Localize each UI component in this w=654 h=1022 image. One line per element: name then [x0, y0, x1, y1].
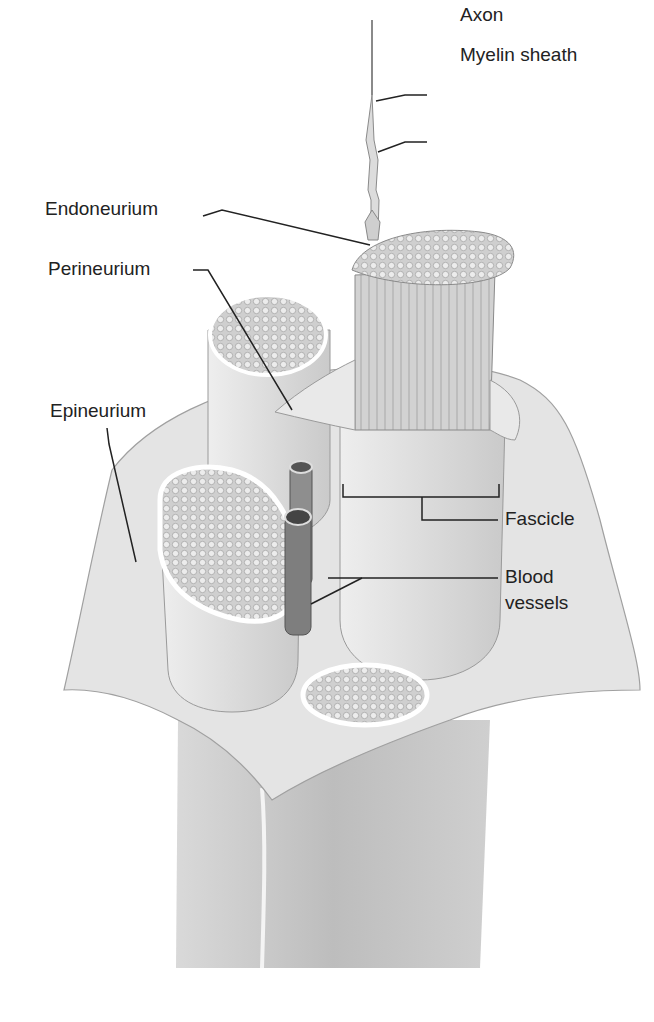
leader-axon [376, 95, 427, 101]
label-endoneurium: Endoneurium [45, 198, 158, 220]
fascicle-small [303, 665, 427, 725]
leader-endoneurium [203, 210, 370, 245]
label-fascicle: Fascicle [505, 508, 575, 530]
label-perineurium: Perineurium [48, 258, 150, 280]
label-axon: Axon [460, 4, 503, 26]
leader-myelin [378, 142, 427, 152]
label-blood-vessels-line2: vessels [505, 592, 568, 614]
nerve-diagram: Axon Myelin sheath Endoneurium Perineuri… [0, 0, 654, 1022]
fascicle-large [340, 420, 505, 680]
label-blood-vessels-line1: Blood [505, 566, 554, 588]
blood-vessel-vein [285, 515, 311, 635]
label-myelin-sheath: Myelin sheath [460, 44, 577, 66]
label-epineurium: Epineurium [50, 400, 146, 422]
axon-bundle [355, 270, 495, 430]
